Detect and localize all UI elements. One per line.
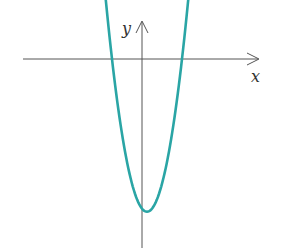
x-axis bbox=[23, 53, 259, 65]
parabola-graph: y x bbox=[0, 0, 287, 248]
y-axis-label: y bbox=[121, 19, 132, 38]
y-axis bbox=[136, 21, 148, 248]
x-axis-label: x bbox=[251, 67, 260, 86]
